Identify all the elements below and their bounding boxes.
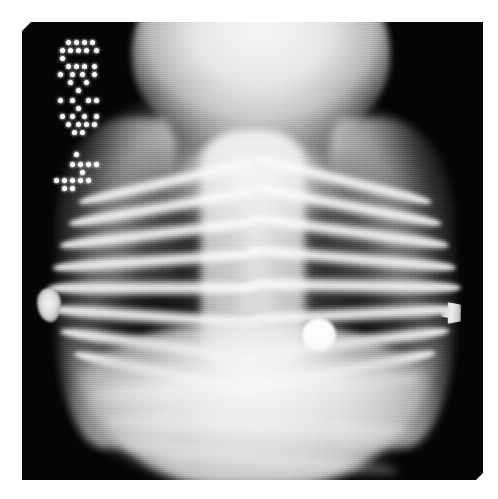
annotation-dot (78, 162, 83, 167)
annotation-dot (78, 178, 83, 183)
film-corner-bevel-bottom-right (476, 473, 483, 480)
annotation-dot (62, 186, 67, 191)
ecg-electrode-marker (302, 318, 336, 352)
annotation-dot (74, 152, 79, 157)
annotation-group-lower-block (36, 34, 106, 194)
film-corner-bevel-top-left (22, 22, 31, 31)
annotation-dot (62, 178, 67, 183)
annotation-dot (94, 162, 99, 167)
dot-matrix-annotation (36, 34, 106, 194)
annotation-dot (70, 186, 75, 191)
annotation-dot (70, 162, 75, 167)
annotation-dot (86, 178, 91, 183)
radiograph-viewer (0, 0, 498, 499)
rib-left-5 (48, 278, 260, 298)
annotation-dot (86, 162, 91, 167)
annotation-dot (54, 178, 59, 183)
left-edge-marker (37, 288, 61, 322)
annotation-dot (70, 178, 75, 183)
radiograph-film (22, 22, 483, 480)
annotation-dot (80, 170, 85, 175)
